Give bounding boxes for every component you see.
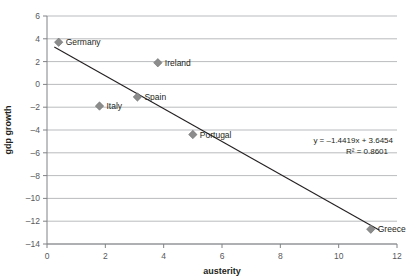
y-tick-label: 2: [35, 57, 40, 67]
data-point-label: Italy: [107, 101, 123, 111]
data-point-marker: [367, 225, 375, 233]
data-point-marker: [189, 130, 197, 138]
x-tick-label: 2: [103, 251, 108, 261]
x-tick-label: 0: [45, 251, 50, 261]
y-tick-label: –14: [26, 239, 40, 249]
x-tick-label: 10: [334, 251, 344, 261]
x-tick-labels: 024681012: [45, 251, 402, 261]
scatter-chart: 6420–2–4–6–8–10–12–14 024681012 GermanyI…: [0, 0, 415, 278]
y-tick-label: –8: [31, 171, 41, 181]
y-tick-label: 0: [35, 79, 40, 89]
trendline-r-squared: R² = 0.8601: [346, 147, 389, 156]
data-point-label: Spain: [144, 92, 166, 102]
y-tick-label: 6: [35, 11, 40, 21]
x-axis-title: austerity: [203, 266, 241, 276]
y-tick-label: –6: [31, 148, 41, 158]
x-tick-label: 12: [392, 251, 402, 261]
y-tick-label: 4: [35, 34, 40, 44]
y-tick-label: –2: [31, 102, 41, 112]
data-point-label: Germany: [66, 37, 102, 47]
y-tick-label: –4: [31, 125, 41, 135]
y-tick-label: –12: [26, 216, 40, 226]
data-point-marker: [154, 59, 162, 67]
y-axis-title: gdp growth: [3, 106, 13, 155]
x-tick-label: 8: [278, 251, 283, 261]
x-tick-label: 6: [220, 251, 225, 261]
chart-canvas: 6420–2–4–6–8–10–12–14 024681012 GermanyI…: [0, 0, 415, 278]
data-point-label: Greece: [378, 224, 406, 234]
trendline-equation: y = –1.4419x + 3.6454: [313, 136, 393, 145]
y-tick-label: –10: [26, 193, 40, 203]
y-tick-labels: 6420–2–4–6–8–10–12–14: [26, 11, 40, 249]
data-point-label: Portugal: [200, 130, 232, 140]
data-point-marker: [133, 93, 141, 101]
x-tick-label: 4: [161, 251, 166, 261]
data-point-label: Ireland: [165, 58, 191, 68]
data-point-marker: [95, 102, 103, 110]
data-point-marker: [54, 38, 62, 46]
